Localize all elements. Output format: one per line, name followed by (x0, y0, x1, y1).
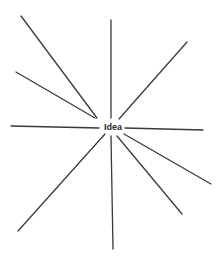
ray-line-upper-left-short (16, 72, 95, 118)
ray-line-upper-left-long (21, 16, 97, 118)
center-idea-label: Idea (104, 123, 122, 132)
ray-line-upper-right (119, 42, 187, 119)
ray-line-left-horizontal (11, 126, 99, 128)
ray-line-bottom-vertical (111, 136, 113, 249)
ray-line-lower-right-shallow (124, 134, 211, 184)
ray-line-right-horizontal (125, 128, 203, 130)
ray-line-lower-left (18, 134, 105, 231)
ray-line-lower-right-steep (117, 136, 182, 214)
